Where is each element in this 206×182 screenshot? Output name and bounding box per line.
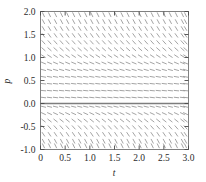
slope-mark — [60, 26, 63, 30]
slope-mark — [115, 26, 118, 30]
slope-mark — [113, 106, 118, 107]
slope-mark — [108, 132, 111, 136]
slope-mark — [133, 33, 136, 37]
slope-mark — [184, 33, 187, 37]
slope-mark — [102, 62, 107, 64]
slope-mark — [126, 106, 131, 107]
slope-mark — [174, 69, 179, 70]
slope-mark — [126, 76, 131, 77]
slope-mark — [102, 113, 107, 115]
slope-mark — [85, 143, 87, 148]
slope-mark — [162, 106, 167, 107]
slope-mark — [113, 97, 118, 98]
slope-mark — [65, 83, 70, 84]
slope-mark — [53, 83, 58, 84]
slope-mark — [48, 40, 51, 44]
slope-mark — [41, 106, 46, 107]
slope-mark — [150, 48, 154, 51]
slope-mark — [126, 113, 131, 115]
slope-mark — [144, 76, 149, 77]
slope-mark — [163, 139, 165, 144]
slope-mark — [113, 69, 118, 70]
slope-mark — [95, 83, 100, 84]
slope-mark — [150, 69, 155, 70]
slope-mark — [132, 97, 137, 98]
slope-mark — [54, 19, 56, 24]
slope-mark — [126, 125, 129, 129]
slope-mark — [127, 19, 129, 24]
slope-mark — [144, 83, 149, 84]
slope-mark — [59, 55, 63, 58]
slope-mark — [54, 26, 57, 30]
slope-mark — [95, 106, 100, 107]
slope-mark — [127, 12, 129, 17]
slope-mark — [175, 139, 177, 144]
slope-mark — [121, 12, 123, 17]
slope-mark — [157, 12, 159, 17]
slope-mark — [78, 33, 81, 37]
slope-mark — [66, 143, 68, 148]
slope-mark — [133, 19, 135, 24]
slope-mark — [107, 69, 112, 70]
slope-mark — [48, 33, 51, 37]
slope-mark — [151, 125, 154, 129]
slope-mark — [54, 132, 57, 136]
slope-mark — [184, 12, 186, 17]
slope-mark — [115, 12, 117, 17]
slope-mark — [145, 139, 147, 144]
slope-mark — [96, 125, 99, 129]
slope-mark — [127, 132, 130, 136]
slope-mark — [90, 119, 94, 122]
slope-mark — [42, 19, 44, 24]
slope-mark — [174, 76, 179, 77]
slope-mark — [90, 33, 93, 37]
slope-mark — [126, 69, 131, 70]
slope-mark — [145, 26, 148, 30]
slope-mark — [133, 132, 136, 136]
slope-mark — [115, 143, 117, 148]
slope-mark — [109, 26, 112, 30]
slope-mark — [144, 48, 148, 51]
slope-mark — [119, 106, 124, 107]
slope-mark — [66, 132, 69, 136]
slope-mark — [96, 40, 99, 44]
slope-mark — [101, 69, 106, 70]
slope-mark — [151, 26, 154, 30]
slope-mark — [54, 40, 57, 44]
slope-mark — [78, 125, 81, 129]
slope-mark — [157, 132, 160, 136]
slope-mark — [125, 97, 130, 98]
slope-mark — [184, 139, 186, 144]
slope-mark — [175, 33, 178, 37]
slope-mark — [126, 40, 129, 44]
slope-mark — [53, 62, 58, 64]
slope-mark — [42, 40, 45, 44]
slope-mark — [41, 76, 46, 77]
slope-mark — [184, 19, 186, 24]
slope-mark — [59, 113, 64, 115]
slope-mark — [91, 139, 93, 144]
slope-mark — [120, 62, 125, 64]
slope-mark — [114, 40, 117, 44]
slope-mark — [115, 19, 117, 24]
slope-mark — [42, 26, 45, 30]
slope-mark — [108, 40, 111, 44]
slope-mark — [83, 76, 88, 77]
x-tick-label: 1.0 — [84, 153, 96, 163]
y-tick-label: -0.5 — [20, 122, 35, 132]
slope-mark — [109, 19, 111, 24]
slope-mark — [83, 62, 88, 64]
slope-mark — [103, 26, 106, 30]
slope-mark — [175, 40, 178, 44]
slope-mark — [174, 62, 179, 64]
slope-mark — [114, 62, 119, 64]
slope-mark — [85, 19, 87, 24]
slope-mark — [156, 119, 160, 122]
slope-mark — [72, 125, 75, 129]
slope-mark — [42, 12, 44, 17]
slope-mark — [65, 97, 70, 98]
slope-mark — [73, 143, 75, 148]
slope-mark — [60, 33, 63, 37]
slope-mark — [144, 55, 148, 58]
slope-mark — [168, 62, 173, 64]
